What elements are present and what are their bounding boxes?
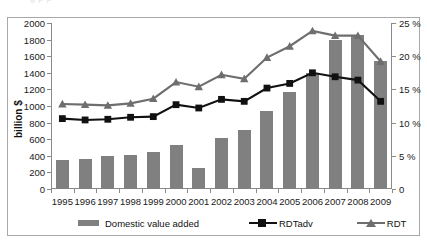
x-axis-tick xyxy=(74,189,75,193)
left-axis-tick-label: 200 xyxy=(29,167,45,178)
x-axis-tick xyxy=(51,189,52,193)
chart-legend: Domestic value added RDTadv RDT xyxy=(51,214,392,232)
left-axis-tick-label: 800 xyxy=(29,117,45,128)
right-axis-tick-label: 15 % xyxy=(399,84,421,95)
x-axis-tick xyxy=(119,189,120,193)
legend-item-rdt: RDT xyxy=(357,218,407,229)
x-axis-tick-label: 2006 xyxy=(301,196,324,210)
line-series-group xyxy=(51,23,392,189)
right-axis-tick-label: 25 % xyxy=(399,18,421,29)
x-axis-tick-label: 2002 xyxy=(210,196,233,210)
x-axis-tick-label: 1996 xyxy=(74,196,97,210)
x-axis-tick-label: 2007 xyxy=(324,196,347,210)
x-axis-tick xyxy=(369,189,370,193)
x-axis-tick xyxy=(210,189,211,193)
x-axis-tick-label: 2008 xyxy=(347,196,370,210)
left-axis-tick-label: 1400 xyxy=(24,67,45,78)
square-marker-icon xyxy=(286,80,293,87)
bar-swatch-icon xyxy=(78,220,99,226)
square-marker-icon xyxy=(264,85,271,92)
left-axis-tick-label: 600 xyxy=(29,134,45,145)
x-axis-tick xyxy=(256,189,257,193)
x-axis-tick-label: 2000 xyxy=(165,196,188,210)
left-axis-tick-label: 1800 xyxy=(24,34,45,45)
left-axis-tick-label: 1200 xyxy=(24,84,45,95)
square-marker-icon xyxy=(82,117,89,124)
x-axis-tick xyxy=(278,189,279,193)
right-axis-tick xyxy=(392,156,396,157)
legend-item-rdtadv: RDTadv xyxy=(249,218,313,229)
square-marker-icon xyxy=(104,116,111,123)
x-axis-tick xyxy=(96,189,97,193)
left-axis-tick-label: 2000 xyxy=(24,18,45,29)
square-marker-icon xyxy=(150,113,157,120)
right-axis-tick-label: 5 % xyxy=(399,150,415,161)
legend-label: RDTadv xyxy=(279,218,313,229)
square-marker-icon xyxy=(377,98,384,105)
left-axis-tick-label: 1000 xyxy=(24,101,45,112)
x-axis-tick xyxy=(392,189,393,193)
x-axis-tick xyxy=(301,189,302,193)
left-axis-tick-label: 1600 xyxy=(24,51,45,62)
square-marker-icon xyxy=(309,69,316,76)
x-axis-tick-label: 1999 xyxy=(142,196,165,210)
x-axis-labels: 1995199619971998199920002001200220032004… xyxy=(51,196,392,210)
square-marker-icon xyxy=(241,98,248,105)
right-axis-tick xyxy=(392,23,396,24)
square-marker-icon xyxy=(249,218,277,228)
line-rdt xyxy=(62,31,380,105)
x-axis-tick-label: 2004 xyxy=(256,196,279,210)
right-axis-tick xyxy=(392,123,396,124)
legend-label: RDT xyxy=(387,218,407,229)
left-axis-tick-label: 0 xyxy=(40,184,45,195)
clipped-text-above: g p p xyxy=(0,0,427,14)
right-axis-tick-label: 10 % xyxy=(399,117,421,128)
x-axis-tick-label: 2005 xyxy=(278,196,301,210)
x-axis-tick-label: 1998 xyxy=(119,196,142,210)
clipped-text: g p p xyxy=(30,0,52,3)
right-axis-tick-label: 20 % xyxy=(399,51,421,62)
legend-label: Domestic value added xyxy=(105,218,199,229)
square-marker-icon xyxy=(127,114,134,121)
plot-area: 2000180016001400120010008006004002000 25… xyxy=(51,23,392,189)
x-axis-tick xyxy=(187,189,188,193)
right-axis-tick xyxy=(392,56,396,57)
legend-item-domestic-value-added: Domestic value added xyxy=(78,218,199,229)
square-marker-icon xyxy=(218,96,225,103)
square-marker-icon xyxy=(195,105,202,112)
x-axis-tick-label: 1997 xyxy=(96,196,119,210)
chart-figure: billion $ 200018001600140012001000800600… xyxy=(7,17,420,236)
square-marker-icon xyxy=(59,115,66,122)
x-axis-tick-label: 2001 xyxy=(187,196,210,210)
square-marker-icon xyxy=(332,73,339,80)
x-axis-tick xyxy=(233,189,234,193)
right-axis-tick xyxy=(392,89,396,90)
x-axis-tick-label: 2009 xyxy=(369,196,392,210)
square-marker-icon xyxy=(355,77,362,84)
left-axis-tick-label: 400 xyxy=(29,150,45,161)
x-axis-tick-label: 2003 xyxy=(233,196,256,210)
triangle-marker-icon xyxy=(357,218,385,228)
y-axis-title: billion $ xyxy=(13,100,24,138)
x-axis-tick xyxy=(165,189,166,193)
x-axis-tick-label: 1995 xyxy=(51,196,74,210)
right-axis-tick-label: 0 xyxy=(399,184,404,195)
x-axis-tick xyxy=(324,189,325,193)
x-axis-tick xyxy=(142,189,143,193)
square-marker-icon xyxy=(173,101,180,108)
x-axis-tick xyxy=(347,189,348,193)
